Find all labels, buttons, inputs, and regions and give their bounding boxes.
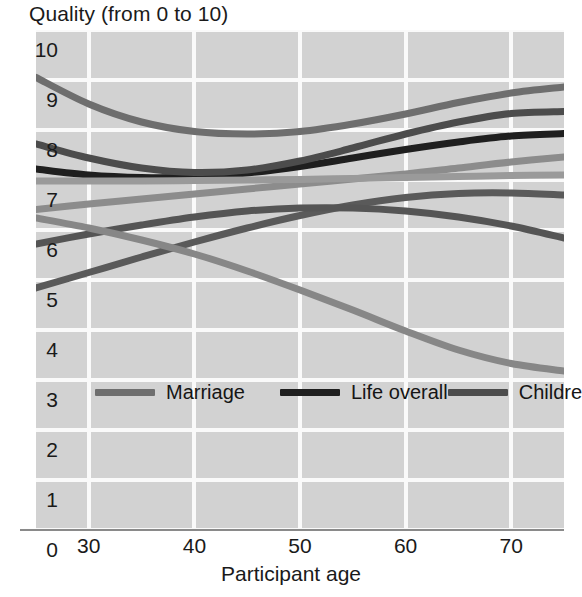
x-axis-line — [20, 529, 564, 531]
legend-item[interactable]: Marriage — [95, 378, 280, 406]
legend-swatch-icon — [448, 389, 508, 396]
legend-swatch-icon — [280, 389, 340, 396]
x-tick-label: 50 — [280, 534, 320, 558]
y-tick-label: 5 — [28, 288, 58, 312]
y-tick-label: 0 — [28, 538, 58, 562]
y-tick-label: 9 — [28, 88, 58, 112]
plot-area — [36, 30, 564, 530]
x-axis-caption: Participant age — [0, 562, 582, 586]
y-tick-label: 8 — [28, 138, 58, 162]
legend-item[interactable]: Life overall — [280, 378, 448, 406]
x-tick-label: 30 — [69, 534, 109, 558]
legend-swatch-icon — [95, 389, 155, 396]
x-tick-label: 40 — [174, 534, 214, 558]
line-series-sexuality — [36, 218, 564, 371]
y-axis-caption: Quality (from 0 to 10) — [29, 2, 228, 26]
y-tick-label: 1 — [28, 488, 58, 512]
chart-figure: Quality (from 0 to 10) 012345678910 3040… — [0, 0, 582, 597]
legend-label: Children — [519, 381, 582, 404]
y-tick-label: 3 — [28, 388, 58, 412]
legend-label: Marriage — [166, 381, 245, 404]
legend-item[interactable]: Children — [448, 378, 582, 406]
legend-label: Life overall — [351, 381, 448, 404]
y-tick-label: 4 — [28, 338, 58, 362]
legend: MarriageLife overallChildrenWorkFinances… — [95, 378, 495, 406]
line-series-group — [36, 30, 564, 530]
y-tick-label: 7 — [28, 188, 58, 212]
y-tick-label: 6 — [28, 238, 58, 262]
line-series-marriage — [36, 78, 564, 135]
line-series-life-overall — [36, 134, 564, 178]
x-tick-label: 70 — [491, 534, 531, 558]
y-tick-label: 2 — [28, 438, 58, 462]
x-tick-label: 60 — [386, 534, 426, 558]
y-tick-label: 10 — [28, 38, 58, 62]
